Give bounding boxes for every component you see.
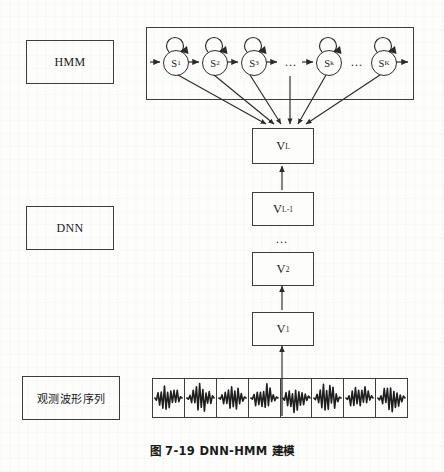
label-box-dnn: DNN (26, 206, 114, 250)
hmm-state-s1: S1 (163, 50, 189, 76)
dnn-box-v1-label: V (277, 322, 286, 337)
dnn-box-vl-minus-1: VL-1 (252, 192, 314, 226)
dnn-vertical-ellipsis: ... (252, 232, 312, 247)
label-box-observation-text: 观测波形序列 (37, 390, 106, 406)
hmm-state-sk-lower: Sk (316, 50, 342, 76)
label-box-observation: 观测波形序列 (22, 376, 120, 420)
hmm-gap-ellipsis-1: ... (281, 55, 301, 70)
waveform-cell (312, 379, 344, 417)
hmm-state-s2-sub: 2 (216, 59, 220, 67)
hmm-state-s2: S2 (202, 50, 228, 76)
waveform-cell (249, 379, 281, 417)
waveform-cell (185, 379, 217, 417)
waveform-cell (376, 379, 407, 417)
dnn-box-v1-sub: 1 (286, 325, 290, 334)
figure-caption: 图 7-19 DNN-HMM 建模 (0, 442, 444, 458)
dnn-box-vl-label: V (276, 139, 285, 154)
hmm-gap-ellipsis-2: ... (347, 55, 367, 70)
waveform-cell (281, 379, 313, 417)
observation-waveform-strip (152, 378, 408, 418)
hmm-state-sk-upper: SK (371, 50, 397, 76)
label-box-hmm: HMM (26, 40, 114, 84)
hmm-state-s3: S3 (241, 50, 267, 76)
dnn-box-v2-sub: 2 (286, 265, 290, 274)
dnn-box-v2: V2 (252, 252, 314, 286)
dnn-box-v2-label: V (277, 262, 286, 277)
label-box-dnn-text: DNN (56, 221, 83, 236)
figure-canvas: HMM DNN 观测波形序列 S1 S2 S3 Sk SK ... ... VL… (0, 0, 444, 472)
hmm-state-s3-sub: 3 (255, 59, 259, 67)
dnn-box-v1: V1 (252, 312, 314, 346)
dnn-box-vl: VL (252, 128, 314, 164)
dnn-box-vl-minus-1-sub: L-1 (282, 205, 293, 214)
hmm-state-s1-sub: 1 (177, 59, 181, 67)
waveform-cell (217, 379, 249, 417)
dnn-box-vl-sub: L (285, 142, 290, 151)
hmm-state-sk-upper-sub: K (384, 59, 389, 67)
label-box-hmm-text: HMM (54, 55, 85, 70)
waveform-cell (153, 379, 185, 417)
waveform-cell (344, 379, 376, 417)
hmm-state-sk-lower-sub: k (330, 59, 334, 67)
dnn-box-vl-minus-1-label: V (273, 202, 282, 217)
